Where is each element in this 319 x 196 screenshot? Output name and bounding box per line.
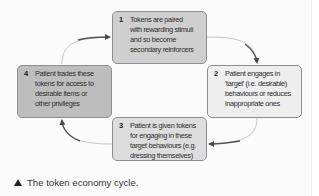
- triangle-up-icon: [14, 179, 22, 186]
- page-margin: [311, 0, 319, 196]
- step-text: Patient trades these tokens for access t…: [35, 69, 107, 115]
- step-box-1: 1 Tokens are paired with rewarding stimu…: [112, 11, 207, 64]
- step-box-2: 2 Patient engages in 'target' (i.e. desi…: [207, 65, 302, 118]
- step-number: 3: [119, 121, 130, 158]
- step-text: Patient engages in 'target' (i.e. desira…: [225, 69, 297, 115]
- step-text: Tokens are paired with rewarding stimuli…: [130, 15, 202, 61]
- step-number: 2: [214, 69, 225, 115]
- step-number: 4: [24, 69, 35, 115]
- step-number: 1: [119, 15, 130, 61]
- caption-text: The token economy cycle.: [27, 177, 138, 188]
- step-box-4: 4 Patient trades these tokens for access…: [17, 65, 112, 118]
- figure-caption: The token economy cycle.: [14, 177, 138, 188]
- step-text: Patient is given tokens for engaging in …: [130, 121, 202, 158]
- step-box-3: 3 Patient is given tokens for engaging i…: [112, 117, 207, 161]
